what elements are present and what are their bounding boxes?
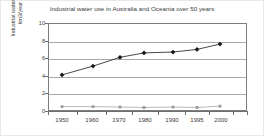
x-tick-label-1995: 1995 — [184, 117, 210, 123]
x-tick-mark-start — [48, 111, 49, 115]
x-tick-label-2000: 2000 — [208, 117, 234, 123]
gridline-6 — [49, 59, 246, 60]
x-tick-mark-end — [247, 111, 248, 115]
y-tick-label-6: 6 — [33, 55, 45, 61]
y-axis-title-line-2: km3/year — [17, 0, 24, 47]
chart-title: Industrial water use in Australia and Oc… — [1, 5, 263, 12]
y-tick-label-2: 2 — [33, 90, 45, 96]
y-axis-title: Industrial water use km3/year — [10, 0, 30, 47]
gridline-4 — [49, 77, 246, 78]
x-tick-mark-3 — [132, 111, 133, 115]
x-tick-label-1950: 1950 — [49, 117, 75, 123]
x-tick-mark-5 — [185, 111, 186, 115]
x-tick-label-1980: 1980 — [132, 117, 158, 123]
x-tick-mark-1 — [77, 111, 78, 115]
gridline-2 — [49, 94, 246, 95]
x-tick-mark-2 — [106, 111, 107, 115]
x-tick-label-1990: 1990 — [159, 117, 185, 123]
y-tick-label-4: 4 — [33, 73, 45, 79]
y-axis-tick-labels: 10 8 6 4 2 0 — [32, 23, 45, 111]
x-tick-mark-7 — [233, 111, 234, 115]
x-tick-mark-4 — [158, 111, 159, 115]
y-tick-label-8: 8 — [33, 38, 45, 44]
x-tick-label-1970: 1970 — [106, 117, 132, 123]
chart-container: Industrial water use in Australia and Oc… — [0, 0, 264, 136]
y-tick-label-0: 0 — [33, 108, 45, 114]
x-tick-mark-6 — [209, 111, 210, 115]
y-tick-label-10: 10 — [33, 20, 45, 26]
gridline-8 — [49, 42, 246, 43]
plot-area — [48, 23, 247, 111]
y-axis-title-line-1: Industrial water use — [10, 0, 17, 47]
x-tick-label-1960: 1960 — [79, 117, 105, 123]
